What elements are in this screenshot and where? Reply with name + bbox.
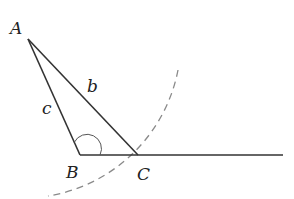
triangle-diagram: A B C b c <box>0 0 294 199</box>
point-c-label: C <box>137 164 150 184</box>
side-b-label: b <box>87 76 98 96</box>
side-c-label: c <box>42 98 52 118</box>
point-a-label: A <box>8 18 22 38</box>
side-c-line <box>28 39 80 155</box>
point-b-label: B <box>65 162 79 182</box>
side-b-line <box>28 39 138 155</box>
